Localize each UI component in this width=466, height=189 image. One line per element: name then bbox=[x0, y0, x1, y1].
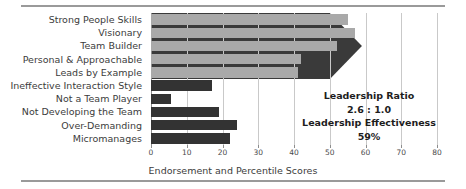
category-label: Strong People Skills bbox=[49, 13, 142, 26]
bar bbox=[151, 14, 348, 25]
x-axis-title: Endorsement and Percentile Scores bbox=[0, 165, 466, 176]
x-tick-label: 0 bbox=[139, 148, 163, 157]
x-tick-label: 40 bbox=[282, 148, 306, 157]
category-label: Team Builder bbox=[80, 39, 142, 52]
x-tick-label: 60 bbox=[354, 148, 378, 157]
leadership-summary-callout: Leadership Ratio 2.6 : 1.0 Leadership Ef… bbox=[288, 89, 450, 143]
leadership-ratio-value: 2.6 : 1.0 bbox=[288, 103, 450, 117]
category-axis-labels: Strong People SkillsVisionaryTeam Builde… bbox=[0, 13, 146, 145]
bar bbox=[151, 107, 219, 118]
bar bbox=[151, 94, 171, 105]
bar bbox=[151, 80, 212, 91]
bar-row bbox=[151, 14, 437, 25]
x-tick-label: 30 bbox=[246, 148, 270, 157]
bar bbox=[151, 41, 337, 52]
category-label: Not a Team Player bbox=[56, 92, 142, 105]
category-label: Micromanages bbox=[73, 132, 142, 145]
bar bbox=[151, 133, 230, 144]
bar-row bbox=[151, 28, 437, 39]
bar-row bbox=[151, 67, 437, 78]
category-label: Ineffective Interaction Style bbox=[10, 79, 142, 92]
x-tick-label: 10 bbox=[175, 148, 199, 157]
bar bbox=[151, 54, 301, 65]
chart-figure: Strong People SkillsVisionaryTeam Builde… bbox=[0, 0, 466, 189]
bar bbox=[151, 120, 237, 131]
x-tick-label: 80 bbox=[425, 148, 449, 157]
leadership-effectiveness-value: 59% bbox=[288, 130, 450, 144]
x-tick-label: 50 bbox=[318, 148, 342, 157]
bottom-divider-rule bbox=[21, 180, 445, 182]
category-label: Not Developing the Team bbox=[22, 105, 142, 118]
category-label: Leads by Example bbox=[55, 66, 142, 79]
category-label: Over-Demanding bbox=[61, 119, 142, 132]
x-tick-label: 20 bbox=[211, 148, 235, 157]
category-label: Personal & Approachable bbox=[23, 53, 142, 66]
x-tick-label: 70 bbox=[389, 148, 413, 157]
bar bbox=[151, 67, 298, 78]
top-divider-rule bbox=[21, 5, 445, 7]
leadership-effectiveness-label: Leadership Effectiveness bbox=[288, 116, 450, 130]
bar bbox=[151, 28, 355, 39]
category-label: Visionary bbox=[98, 26, 142, 39]
bar-row bbox=[151, 41, 437, 52]
bar-row bbox=[151, 54, 437, 65]
leadership-ratio-label: Leadership Ratio bbox=[288, 89, 450, 103]
